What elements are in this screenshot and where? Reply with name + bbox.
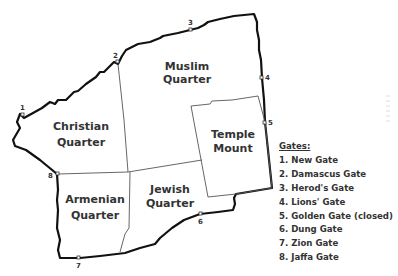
svg-text:2: 2 — [113, 52, 118, 60]
svg-text:Quarter: Quarter — [163, 73, 212, 86]
legend-item-herods-gate: 3. Herod's Gate — [279, 182, 393, 196]
svg-text:7: 7 — [76, 262, 81, 270]
svg-text:Quarter: Quarter — [71, 209, 120, 222]
svg-text:Mount: Mount — [213, 142, 252, 155]
svg-text:Temple: Temple — [211, 128, 255, 141]
svg-text:Quarter: Quarter — [57, 136, 106, 149]
label-jewish-quarter: Jewish Quarter — [146, 183, 195, 210]
legend-item-damascus-gate: 2. Damascus Gate — [279, 168, 393, 182]
svg-text:Christian: Christian — [53, 120, 109, 133]
faint-watermark — [386, 95, 390, 125]
svg-text:Jewish: Jewish — [149, 183, 190, 196]
svg-text:Quarter: Quarter — [146, 197, 195, 210]
svg-text:4: 4 — [265, 74, 270, 82]
label-armenian-quarter: Armenian Quarter — [65, 193, 125, 222]
svg-text:Armenian: Armenian — [65, 193, 125, 206]
gates-legend: Gates: 1. New Gate 2. Damascus Gate 3. H… — [279, 140, 393, 265]
label-muslim-quarter: Muslim Quarter — [163, 60, 212, 86]
armenian-jewish-boundary — [120, 172, 130, 252]
legend-item-golden-gate: 5. Golden Gate (closed) — [279, 210, 393, 224]
legend-item-zion-gate: 7. Zion Gate — [279, 237, 393, 251]
svg-text:5: 5 — [268, 119, 273, 127]
svg-text:Muslim: Muslim — [165, 60, 209, 73]
svg-text:6: 6 — [198, 218, 203, 226]
legend-item-lions-gate: 4. Lions' Gate — [279, 196, 393, 210]
legend-item-new-gate: 1. New Gate — [279, 154, 393, 168]
label-christian-quarter: Christian Quarter — [53, 120, 109, 149]
legend-item-dung-gate: 6. Dung Gate — [279, 223, 393, 237]
svg-text:8: 8 — [48, 172, 53, 180]
svg-text:3: 3 — [188, 19, 193, 27]
east-west-boundary — [58, 160, 202, 174]
legend-title: Gates: — [279, 140, 393, 154]
svg-text:1: 1 — [20, 104, 25, 112]
label-temple-mount: Temple Mount — [211, 128, 255, 155]
christian-muslim-boundary — [118, 64, 128, 172]
legend-item-jaffa-gate: 8. Jaffa Gate — [279, 251, 393, 265]
